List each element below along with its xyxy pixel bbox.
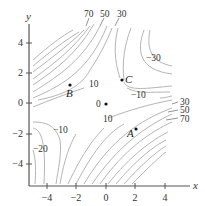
x-tick-label: 4 bbox=[163, 192, 168, 203]
point-c-marker bbox=[120, 78, 123, 81]
point-a-label: A bbox=[126, 127, 134, 139]
y-axis-label: y bbox=[25, 10, 31, 22]
contour-plot: y x 4 2 0 −2 −4 −4 −2 0 2 4 70 50 30 −30… bbox=[0, 0, 205, 206]
y-tick-labels: 4 2 0 −2 −4 bbox=[12, 37, 23, 169]
contour-label-70: 70 bbox=[84, 9, 94, 19]
origin-marker bbox=[104, 102, 107, 105]
y-tick-label: 0 bbox=[18, 97, 23, 108]
contour-label-neg20: −20 bbox=[33, 144, 48, 154]
point-c-label: C bbox=[125, 73, 133, 85]
x-tick-label: −4 bbox=[42, 192, 53, 203]
marked-points: A B C 0 bbox=[66, 73, 138, 139]
y-tick-label: 4 bbox=[18, 37, 23, 48]
contour-label-neg10-left: −10 bbox=[53, 125, 68, 135]
contour-label-30: 30 bbox=[117, 9, 127, 19]
contours-bottom-right bbox=[68, 100, 172, 184]
contour-label-10-lower: 10 bbox=[103, 114, 113, 124]
point-b-label: B bbox=[66, 87, 73, 99]
y-tick-label: −4 bbox=[12, 158, 23, 169]
contours-bottom-left bbox=[33, 88, 84, 184]
y-tick-label: −2 bbox=[12, 128, 23, 139]
point-a-marker bbox=[134, 127, 137, 130]
x-axis-label: x bbox=[192, 179, 198, 191]
x-tick-label: 0 bbox=[104, 192, 109, 203]
contour-label-10-upper: 10 bbox=[89, 79, 99, 89]
origin-label: 0 bbox=[96, 99, 101, 109]
contours-top-right bbox=[115, 28, 172, 98]
axes bbox=[26, 24, 190, 189]
x-tick-label: 2 bbox=[133, 192, 138, 203]
x-tick-label: −2 bbox=[71, 192, 82, 203]
x-tick-labels: −4 −2 0 2 4 bbox=[42, 192, 168, 203]
y-tick-label: 2 bbox=[18, 67, 23, 78]
contour-label-neg30: −30 bbox=[146, 53, 161, 63]
contour-label-70-right: 70 bbox=[180, 114, 190, 124]
contour-label-50: 50 bbox=[100, 9, 110, 19]
contour-label-neg10: −10 bbox=[131, 90, 146, 100]
